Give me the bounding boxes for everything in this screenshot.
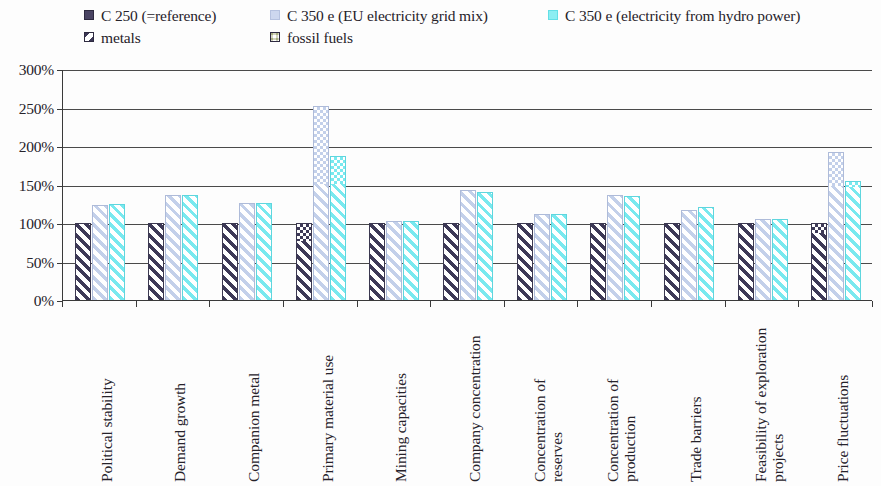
bar-segment-metals [297,241,311,300]
bar-segment-fossil-fuels [829,153,843,185]
x-axis-label-line: Price fluctuations [834,375,851,482]
bar [239,203,255,300]
legend-label-c350-hydro: C 350 e (electricity from hydro power) [565,7,800,24]
chart-figure: C 250 (=reference) C 350 e (EU electrici… [0,0,881,486]
bar-segment-metals [240,204,254,300]
bar [165,195,181,300]
x-axis-label-line: Companion metal [245,373,262,482]
x-axis-label: Political stability [98,378,116,482]
x-axis-label: Price fluctuations [834,375,852,482]
legend-label-c350-eu: C 350 e (EU electricity grid mix) [287,7,488,24]
y-axis-label: 50% [26,255,54,271]
bar-segment-metals [461,191,475,300]
bar-segment-metals [183,196,197,300]
bar-segment-fossil-fuels [812,224,826,233]
bar-segment-metals [444,224,458,300]
bar [590,223,606,300]
bar [607,195,623,300]
x-axis-tick [357,301,358,307]
bar-segment-metals [370,224,384,300]
y-axis-label: 100% [19,216,54,232]
x-axis-label-line: Political stability [98,378,115,482]
x-axis-label-line: Feasibility of exploration [752,328,769,482]
x-axis-tick [872,301,873,307]
x-axis-label: Demand growth [171,383,189,482]
legend-swatch-c350-eu-icon [270,10,280,20]
bar [330,156,346,300]
bar-segment-metals [829,186,843,301]
bar-segment-metals [682,211,696,300]
bar-segment-metals [846,187,860,300]
x-axis-tick [577,301,578,307]
legend-label-fossil-fuels: fossil fuels [287,29,353,46]
legend-swatch-c250-icon [84,10,94,20]
x-axis-label: Concentration ofproduction [604,379,638,482]
x-axis-label-line: reserves [548,379,565,482]
bar-group [210,70,284,300]
x-axis-label: Primary material use [319,355,337,482]
bar [624,196,640,300]
bar-segment-metals [625,197,639,300]
x-axis-label-line: Trade barriers [687,397,704,482]
bar-group [652,70,726,300]
bar-segment-metals [257,204,271,300]
bar [443,223,459,300]
legend-label-metals: metals [101,29,141,46]
bar-segment-metals [535,215,549,300]
bar [75,223,91,300]
bar-group [284,70,358,300]
x-axis-tick [651,301,652,307]
bar [551,214,567,300]
x-axis-label: Mining capacities [392,373,410,482]
legend-swatch-metals-icon [84,32,94,42]
bar [534,214,550,300]
bar-segment-metals [665,224,679,300]
x-axis-label: Concentration ofreserves [531,379,565,482]
x-axis-label: Companion metal [245,373,263,482]
bar-segment-metals [223,224,237,300]
legend-entry-fossil-fuels: fossil fuels [270,29,353,46]
bar-segment-metals [387,222,401,300]
bar [845,181,861,300]
bar [92,205,108,300]
bar-segment-metals [314,184,328,300]
bar-segment-metals [699,208,713,300]
y-axis-label: 250% [19,101,54,117]
bar-segment-metals [608,196,622,300]
legend-label-c250: C 250 (=reference) [101,7,216,24]
bar [828,152,844,300]
bar-group [505,70,579,300]
legend-swatch-c350-hydro-icon [548,10,558,20]
x-axis-ticks [62,301,872,308]
legend-entry-c250: C 250 (=reference) [84,7,216,24]
bar [681,210,697,300]
bar [772,219,788,300]
x-axis-label: Trade barriers [687,397,705,482]
bar-group [63,70,137,300]
x-axis-label-line: Concentration of [604,379,621,482]
legend-entry-metals: metals [84,29,141,46]
bar-segment-metals [773,220,787,300]
bar-segment-metals [166,196,180,300]
bar [182,195,198,300]
plot-area: 300%250%200%150%100%50%0% [62,70,872,301]
x-axis-label-line: Primary material use [319,355,336,482]
bar-segment-metals [756,220,770,300]
bar-segment-metals [331,184,345,300]
x-axis-label-line: Company concentration [466,336,483,482]
y-axis-label: 200% [19,139,54,155]
x-axis-tick [798,301,799,307]
y-axis-label: 150% [19,178,54,194]
bar-segment-metals [110,205,124,300]
bar-group [799,70,873,300]
bar-segment-metals [518,224,532,300]
x-axis-label-line: Demand growth [171,383,188,482]
bar-group [358,70,432,300]
x-axis-label-line: Concentration of [531,379,548,482]
x-axis-label: Feasibility of explorationprojects [752,328,786,482]
bar-segment-fossil-fuels [314,107,328,184]
bar-segment-fossil-fuels [297,224,311,241]
bar [313,106,329,300]
bar-group [137,70,211,300]
bar [386,221,402,300]
